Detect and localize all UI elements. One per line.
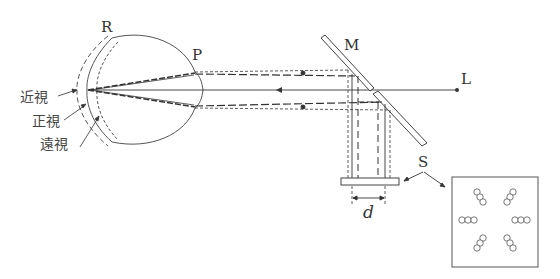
label-distance-d: d xyxy=(363,204,374,221)
label-hyperopia: 遠視 xyxy=(40,137,68,151)
light-source-point xyxy=(455,88,459,92)
label-mirror-m: M xyxy=(344,38,359,53)
optical-diagram xyxy=(0,0,560,279)
optical-axis xyxy=(92,87,459,93)
label-myopia: 近視 xyxy=(20,90,48,104)
mirror-lower xyxy=(373,91,427,146)
screen-plate xyxy=(341,178,399,185)
screen-pointers xyxy=(404,172,445,187)
screen-face xyxy=(452,177,538,267)
label-pupil-p: P xyxy=(192,48,202,63)
label-screen-s: S xyxy=(418,155,428,170)
diagram-canvas: R P M L S d 近視 正視 遠視 xyxy=(0,0,560,279)
label-retina-r: R xyxy=(101,20,112,35)
label-light-source-l: L xyxy=(461,72,471,87)
label-emmetropia: 正視 xyxy=(32,114,60,128)
